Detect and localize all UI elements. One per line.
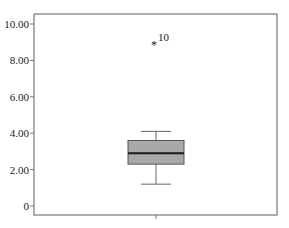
- y-tick-label: 4.00: [10, 127, 30, 139]
- y-tick-label: 10.00: [4, 18, 29, 30]
- box-plot: 02.004.006.008.0010.00 *10: [0, 0, 289, 228]
- outlier-points: *10: [151, 31, 170, 52]
- outlier-star-icon: *: [151, 38, 157, 52]
- y-tick-label: 8.00: [10, 54, 30, 66]
- box-series: [128, 131, 184, 184]
- outlier-label: 10: [158, 31, 170, 43]
- y-tick-label: 2.00: [10, 164, 30, 176]
- y-tick-label: 6.00: [10, 91, 30, 103]
- y-tick-label: 0: [24, 200, 30, 212]
- x-axis-caption-cutoff: [80, 221, 230, 228]
- y-axis: 02.004.006.008.0010.00: [4, 18, 34, 212]
